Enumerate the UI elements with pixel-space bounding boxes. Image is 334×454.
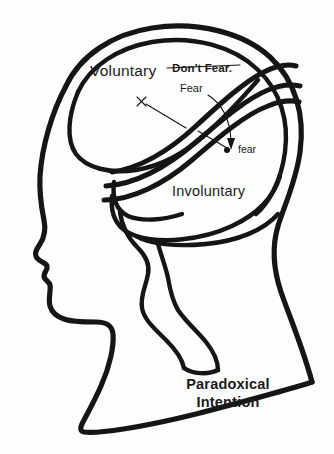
figure-canvas: Don't Fear. Fear fear Voluntary Involunt… xyxy=(0,0,334,454)
head-profile-outline xyxy=(36,86,312,432)
voluntary-label: Voluntary xyxy=(90,62,156,79)
fear-lowercase-label: fear xyxy=(238,143,257,155)
fear-capital-label: Fear xyxy=(180,82,203,94)
head-brain-diagram: Don't Fear. Fear fear Voluntary Involunt… xyxy=(0,0,334,454)
brainstem-bottom-cap xyxy=(184,368,218,373)
back-of-head-neck-outline xyxy=(66,26,312,382)
involuntary-label: Involuntary xyxy=(172,183,246,199)
brainstem-left-edge xyxy=(120,212,184,368)
cross-mark-icon xyxy=(137,97,146,106)
caption-line-2: Intention xyxy=(196,394,259,410)
brainstem-right-edge xyxy=(158,244,218,370)
cross-leader-line xyxy=(146,104,186,128)
dont-fear-label: Don't Fear. xyxy=(172,62,232,74)
caption-line-1: Paradoxical xyxy=(186,376,270,392)
fear-point-dot xyxy=(224,147,230,153)
